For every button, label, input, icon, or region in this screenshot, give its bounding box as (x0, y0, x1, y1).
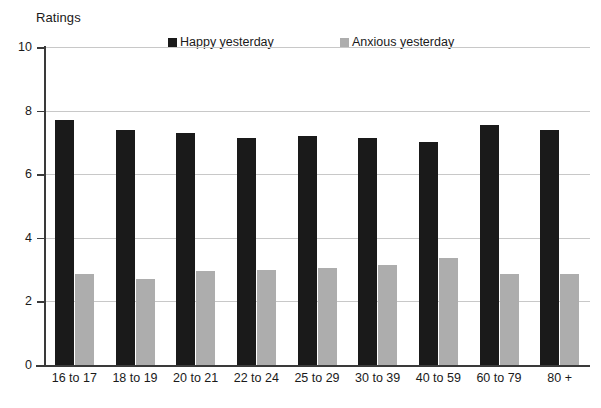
y-axis-tick-label: 0 (2, 359, 32, 372)
bar-happy (176, 133, 195, 365)
ratings-bar-chart: Ratings Happy yesterday Anxious yesterda… (0, 0, 601, 408)
bar-happy (358, 138, 377, 365)
bars-layer (44, 47, 590, 365)
y-axis-title: Ratings (36, 10, 81, 25)
y-axis-tick-label: 2 (2, 295, 32, 308)
bar-group (116, 47, 155, 365)
x-axis-label: 22 to 24 (226, 371, 287, 385)
y-axis-tick-label: 4 (2, 232, 32, 245)
x-axis-label: 30 to 39 (347, 371, 408, 385)
bar-anxious (75, 274, 94, 365)
x-axis-line (36, 365, 590, 367)
bar-group (540, 47, 579, 365)
x-axis-labels: 16 to 1718 to 1920 to 2122 to 2425 to 29… (44, 371, 590, 395)
y-axis-tick-label: 6 (2, 168, 32, 181)
legend-swatch-happy-yesterday (168, 38, 177, 47)
bar-happy (540, 130, 559, 365)
x-axis-label: 18 to 19 (105, 371, 166, 385)
bar-happy (298, 136, 317, 365)
bar-group (419, 47, 458, 365)
bar-happy (419, 142, 438, 365)
y-axis-tick-label: 10 (2, 41, 32, 54)
bar-group (358, 47, 397, 365)
x-axis-label: 20 to 21 (165, 371, 226, 385)
x-axis-label: 80 + (529, 371, 590, 385)
bar-group (176, 47, 215, 365)
bar-group (237, 47, 276, 365)
bar-happy (55, 120, 74, 365)
bar-happy (480, 125, 499, 365)
bar-anxious (560, 274, 579, 365)
bar-group (55, 47, 94, 365)
y-axis-tick (37, 365, 45, 367)
x-axis-label: 16 to 17 (44, 371, 105, 385)
x-axis-label: 60 to 79 (469, 371, 530, 385)
bar-anxious (318, 268, 337, 365)
bar-anxious (378, 265, 397, 365)
y-axis-tick-label: 8 (2, 104, 32, 117)
bar-group (298, 47, 337, 365)
x-axis-label: 40 to 59 (408, 371, 469, 385)
bar-happy (116, 130, 135, 365)
bar-anxious (500, 274, 519, 365)
legend-swatch-anxious-yesterday (340, 38, 349, 47)
bar-anxious (136, 279, 155, 365)
bar-group (480, 47, 519, 365)
x-axis-label: 25 to 29 (287, 371, 348, 385)
bar-anxious (196, 271, 215, 365)
bar-anxious (257, 270, 276, 365)
bar-anxious (439, 258, 458, 365)
bar-happy (237, 138, 256, 365)
